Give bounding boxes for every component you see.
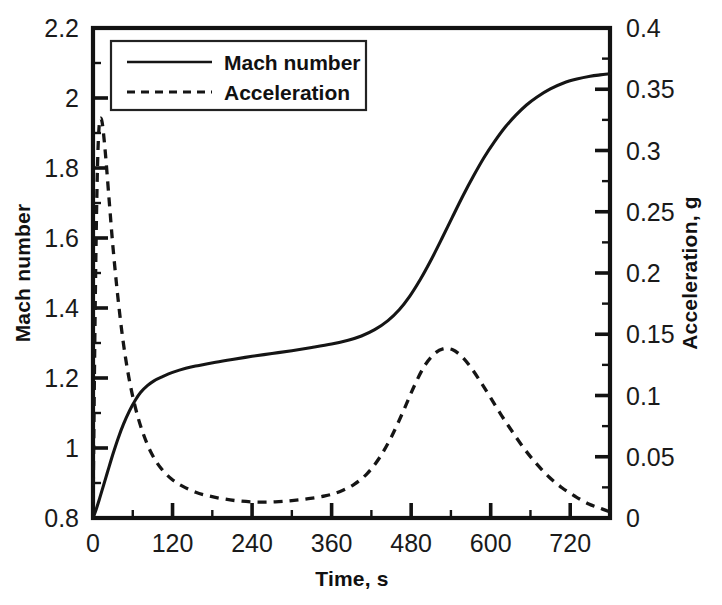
y2-tick-label: 0.05 xyxy=(626,443,675,471)
y-tick-label: 1.8 xyxy=(44,154,79,182)
x-tick-label: 720 xyxy=(549,529,591,557)
y-tick-label: 2 xyxy=(65,84,79,112)
y-tick-label: 1.2 xyxy=(44,364,79,392)
x-tick-label: 600 xyxy=(470,529,512,557)
y-tick-label: 2.2 xyxy=(44,14,79,42)
x-tick-label: 480 xyxy=(390,529,432,557)
y-tick-label: 1.6 xyxy=(44,224,79,252)
x-tick-label: 360 xyxy=(311,529,353,557)
x-axis-title: Time, s xyxy=(315,567,388,590)
y2-tick-label: 0.2 xyxy=(626,259,661,287)
y-tick-label: 1 xyxy=(65,434,79,462)
x-tick-label: 240 xyxy=(231,529,273,557)
chart-figure: 0120240360480600720 0.811.21.41.61.822.2… xyxy=(0,0,722,605)
chart-legend: Mach number Acceleration xyxy=(111,41,366,110)
y-tick-label: 0.8 xyxy=(44,504,79,532)
y2-tick-label: 0.4 xyxy=(626,14,661,42)
legend-label-mach-number: Mach number xyxy=(224,51,361,74)
y2-tick-label: 0 xyxy=(626,504,640,532)
x-tick-label: 120 xyxy=(152,529,194,557)
y-axis-title: Mach number xyxy=(11,204,34,343)
y2-tick-label: 0.35 xyxy=(626,75,675,103)
y2-tick-label: 0.15 xyxy=(626,320,675,348)
y2-tick-label: 0.25 xyxy=(626,198,675,226)
mach-acceleration-chart: 0120240360480600720 0.811.21.41.61.822.2… xyxy=(0,0,722,605)
y-tick-label: 1.4 xyxy=(44,294,79,322)
legend-label-acceleration: Acceleration xyxy=(224,81,350,104)
y2-tick-label: 0.3 xyxy=(626,137,661,165)
x-tick-label: 0 xyxy=(86,529,100,557)
y2-tick-label: 0.1 xyxy=(626,382,661,410)
y2-axis-title: Acceleration, g xyxy=(678,196,701,350)
